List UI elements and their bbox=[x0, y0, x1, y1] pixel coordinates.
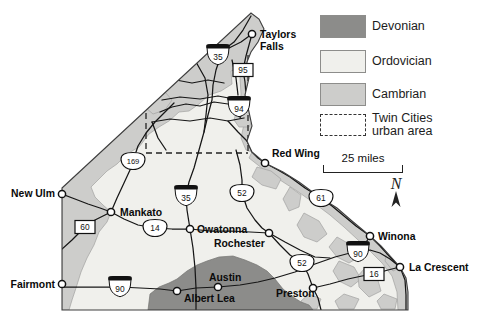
legend-swatch-ordovician bbox=[320, 50, 366, 73]
legend-label-urban-area: Twin Cities urban area bbox=[372, 112, 432, 138]
city-label-owatonna: Owatonna bbox=[197, 224, 247, 235]
highway-number: 61 bbox=[316, 193, 326, 203]
highway-shield-16: 16 bbox=[364, 268, 384, 281]
highway-number: 52 bbox=[237, 188, 247, 198]
legend-swatch-urban-area bbox=[320, 114, 366, 136]
north-arrow: N bbox=[384, 176, 408, 213]
highway-number: 90 bbox=[353, 249, 363, 259]
city-label-austin: Austin bbox=[209, 272, 241, 283]
highway-number: 35 bbox=[181, 193, 191, 203]
highway-number: 52 bbox=[297, 258, 307, 268]
legend-swatch-devonian bbox=[320, 15, 366, 38]
city-label-taylors-falls: Falls bbox=[260, 41, 284, 52]
city-dot-fairmont bbox=[58, 280, 65, 287]
city-label-preston: Preston bbox=[276, 288, 315, 299]
city-label-red-wing: Red Wing bbox=[272, 148, 320, 159]
highway-number: 95 bbox=[238, 65, 248, 75]
city-dot-new-ulm bbox=[58, 190, 65, 197]
city-label-taylors-falls: Taylors bbox=[260, 29, 296, 40]
legend-item-devonian: Devonian bbox=[320, 15, 425, 38]
geologic-map-figure: 359594169355261601490529016TaylorsFallsR… bbox=[0, 0, 477, 320]
city-label-la-crescent: La Crescent bbox=[409, 262, 469, 273]
highway-number: 14 bbox=[150, 223, 160, 233]
city-label-fairmont: Fairmont bbox=[11, 279, 56, 290]
north-arrow-icon bbox=[389, 191, 403, 209]
city-dot-la-crescent bbox=[396, 263, 403, 270]
highway-shield-52: 52 bbox=[230, 185, 254, 202]
city-dot-red-wing bbox=[261, 159, 268, 166]
city-label-rochester: Rochester bbox=[214, 238, 265, 249]
legend-item-cambrian: Cambrian bbox=[320, 83, 426, 106]
highway-shield-61: 61 bbox=[309, 190, 333, 207]
highway-shield-169: 169 bbox=[121, 153, 145, 170]
highway-shield-14: 14 bbox=[143, 220, 167, 237]
scale-bar: 25 miles bbox=[323, 152, 403, 173]
legend-item-ordovician: Ordovician bbox=[320, 50, 432, 73]
highway-number: 60 bbox=[80, 222, 90, 232]
city-label-mankato: Mankato bbox=[120, 207, 162, 218]
legend-swatch-cambrian bbox=[320, 83, 366, 106]
city-dot-rochester bbox=[265, 229, 272, 236]
highway-shield-52: 52 bbox=[290, 255, 314, 272]
city-label-albert-lea: Albert Lea bbox=[184, 293, 235, 304]
legend-item-urban-area: Twin Cities urban area bbox=[320, 112, 432, 138]
city-dot-taylors-falls bbox=[248, 30, 255, 37]
highway-number: 16 bbox=[369, 269, 379, 279]
scale-bar-label: 25 miles bbox=[323, 152, 403, 164]
geology-map: 359594169355261601490529016TaylorsFallsR… bbox=[0, 0, 477, 320]
city-dot-winona bbox=[366, 232, 373, 239]
scale-bar-line bbox=[323, 165, 403, 173]
highway-number: 35 bbox=[213, 52, 223, 62]
city-dot-mankato bbox=[107, 208, 114, 215]
city-dot-albert-lea bbox=[173, 287, 180, 294]
city-label-new-ulm: New Ulm bbox=[11, 188, 55, 199]
highway-shield-60: 60 bbox=[75, 221, 95, 234]
north-label: N bbox=[384, 176, 408, 191]
highway-number: 169 bbox=[127, 157, 140, 166]
legend-label-cambrian: Cambrian bbox=[372, 88, 426, 101]
city-dot-austin bbox=[214, 283, 221, 290]
legend-label-ordovician: Ordovician bbox=[372, 55, 432, 68]
city-label-winona: Winona bbox=[378, 231, 416, 242]
city-dot-owatonna bbox=[186, 225, 193, 232]
highway-number: 94 bbox=[234, 104, 244, 114]
highway-shield-95: 95 bbox=[233, 64, 253, 77]
highway-number: 90 bbox=[115, 284, 125, 294]
legend-label-devonian: Devonian bbox=[372, 20, 425, 33]
